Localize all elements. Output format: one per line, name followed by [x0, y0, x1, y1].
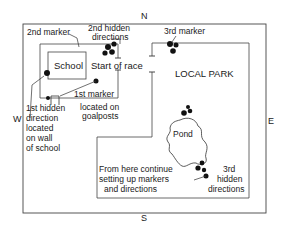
compass-east: E — [268, 117, 274, 127]
third-hidden-3: directions — [208, 185, 244, 195]
first-hidden-5: of school — [26, 144, 60, 154]
park-label: LOCAL PARK — [175, 69, 234, 79]
second-hidden-label-2: directions — [92, 33, 128, 43]
pond-outline — [167, 118, 207, 166]
start-label: Start of race — [91, 61, 143, 71]
compass-west: W — [13, 115, 22, 125]
pond-label: Pond — [173, 130, 193, 140]
continue-note-3: and directions — [104, 185, 157, 195]
compass-south: S — [141, 214, 147, 224]
first-marker-label: 1st marker — [74, 90, 114, 100]
second-marker-label: 2nd marker — [27, 28, 70, 38]
compass-north: N — [141, 12, 148, 22]
school-label: School — [54, 61, 83, 71]
first-marker-note-2: goalposts — [82, 112, 118, 122]
third-marker-label: 3rd marker — [164, 27, 205, 37]
